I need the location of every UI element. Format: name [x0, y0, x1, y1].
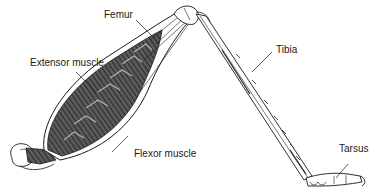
tarsus: [306, 173, 365, 186]
label-femur: Femur: [104, 9, 133, 21]
label-tibia: Tibia: [276, 44, 297, 56]
label-tarsus: Tarsus: [339, 143, 368, 155]
label-flexor-muscle: Flexor muscle: [134, 148, 196, 160]
label-extensor-muscle: Extensor muscle: [30, 57, 104, 69]
femur: [44, 12, 192, 160]
tibia: [196, 14, 312, 180]
insect-leg-diagram: [0, 0, 372, 191]
